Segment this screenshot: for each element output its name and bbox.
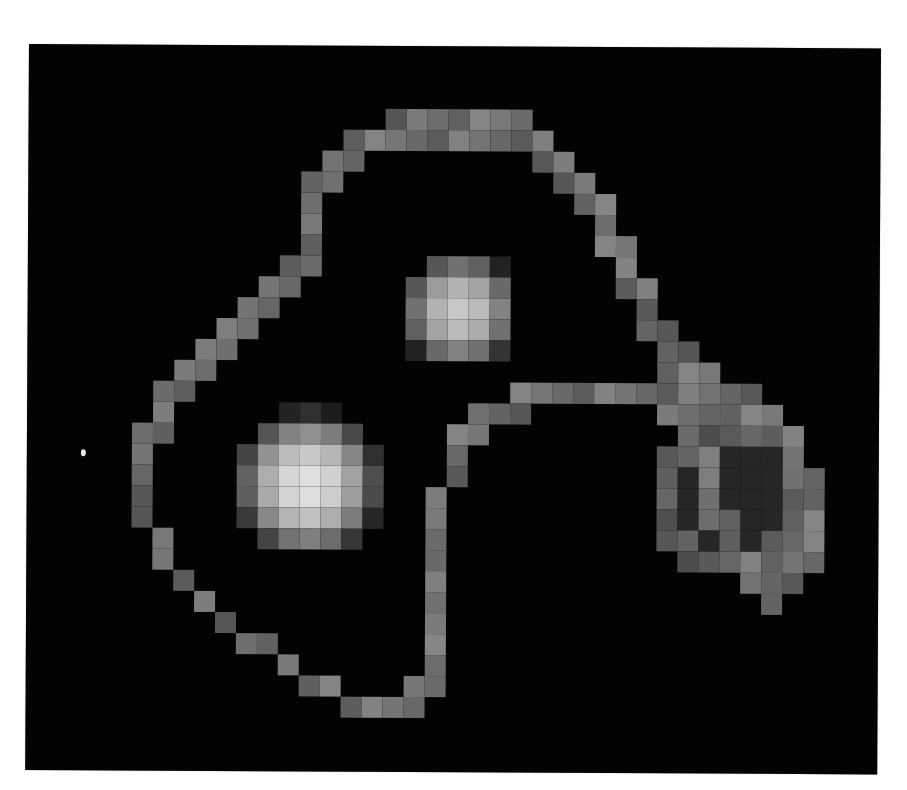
intensity-cell (301, 171, 322, 192)
intensity-cell (279, 444, 300, 465)
intensity-cell (489, 319, 510, 340)
intensity-cell (280, 276, 301, 297)
intensity-cell (490, 256, 511, 277)
intensity-cell (382, 697, 403, 718)
intensity-cell (699, 489, 720, 510)
intensity-cell (343, 151, 364, 172)
intensity-cell (510, 383, 531, 404)
intensity-cell (132, 465, 153, 486)
intensity-cell (761, 510, 782, 531)
intensity-cell (637, 299, 658, 320)
intensity-cell (678, 362, 699, 383)
intensity-cell (719, 510, 740, 531)
intensity-cell (804, 489, 825, 510)
intensity-cell (595, 236, 616, 257)
intensity-cell (320, 508, 341, 529)
intensity-cell (762, 405, 783, 426)
intensity-cell (132, 444, 153, 465)
intensity-cell (490, 130, 511, 151)
intensity-cells (25, 44, 881, 774)
intensity-cell (491, 109, 512, 130)
intensity-cell (299, 507, 320, 528)
intensity-cell (782, 573, 803, 594)
intensity-cell (425, 571, 446, 592)
intensity-cell (616, 278, 637, 299)
intensity-cell (531, 383, 552, 404)
bright-speck (81, 449, 86, 456)
intensity-cell (342, 445, 363, 466)
intensity-cell (468, 340, 489, 361)
intensity-cell (740, 510, 761, 531)
intensity-cell (425, 592, 446, 613)
intensity-cell (762, 468, 783, 489)
intensity-cell (511, 131, 532, 152)
intensity-cell (574, 194, 595, 215)
intensity-cell (595, 194, 616, 215)
intensity-cell (553, 173, 574, 194)
intensity-cell (425, 634, 446, 655)
intensity-cell (447, 466, 468, 487)
intensity-cell (174, 381, 195, 402)
intensity-cell (720, 447, 741, 468)
intensity-cell (173, 570, 194, 591)
intensity-cell (510, 404, 531, 425)
intensity-cell (406, 277, 427, 298)
intensity-cell (364, 130, 385, 151)
intensity-cell (215, 612, 236, 633)
intensity-cell (321, 466, 342, 487)
intensity-cell (468, 403, 489, 424)
intensity-cell (361, 697, 382, 718)
intensity-cell (469, 130, 490, 151)
intensity-cell (719, 552, 740, 573)
intensity-cell (448, 130, 469, 151)
intensity-cell (783, 489, 804, 510)
intensity-cell (258, 444, 279, 465)
intensity-cell (259, 276, 280, 297)
intensity-cell (469, 298, 490, 319)
intensity-cell (279, 465, 300, 486)
intensity-cell (341, 508, 362, 529)
intensity-cell (677, 509, 698, 530)
intensity-cell (278, 528, 299, 549)
intensity-cell (386, 109, 407, 130)
intensity-cell (489, 340, 510, 361)
intensity-cell (656, 530, 677, 551)
intensity-cell (490, 277, 511, 298)
intensity-cell (657, 488, 678, 509)
intensity-cell (448, 256, 469, 277)
intensity-cell (657, 341, 678, 362)
intensity-cell (300, 444, 321, 465)
intensity-cell (236, 633, 257, 654)
intensity-cell (783, 426, 804, 447)
intensity-cell (741, 384, 762, 405)
intensity-cell (762, 447, 783, 468)
intensity-cell (740, 552, 761, 573)
intensity-cell (403, 697, 424, 718)
intensity-cell (657, 404, 678, 425)
intensity-cell (426, 319, 447, 340)
intensity-cell (425, 676, 446, 697)
intensity-cell (447, 340, 468, 361)
intensity-cell (342, 487, 363, 508)
intensity-cell (342, 466, 363, 487)
intensity-cell (761, 531, 782, 552)
intensity-cell (741, 426, 762, 447)
intensity-cell (363, 466, 384, 487)
intensity-cell (803, 552, 824, 573)
intensity-cell (595, 215, 616, 236)
intensity-cell (637, 278, 658, 299)
intensity-cell (804, 468, 825, 489)
intensity-cell (428, 109, 449, 130)
intensity-cell (803, 510, 824, 531)
intensity-cell (761, 594, 782, 615)
intensity-cell (131, 507, 152, 528)
intensity-cell (278, 654, 299, 675)
intensity-map-panel (25, 44, 881, 774)
intensity-cell (720, 405, 741, 426)
intensity-cell (782, 510, 803, 531)
intensity-cell (699, 384, 720, 405)
intensity-cell (447, 319, 468, 340)
intensity-cell (299, 528, 320, 549)
intensity-cell (573, 383, 594, 404)
intensity-cell (698, 552, 719, 573)
